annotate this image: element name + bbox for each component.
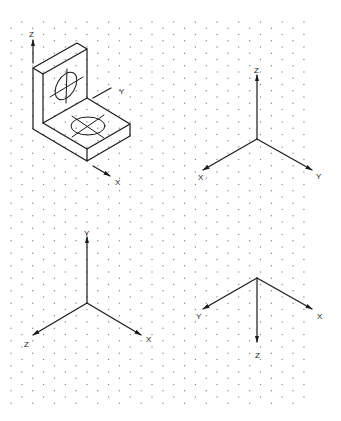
x-axis-arrow [203,139,257,170]
l-bracket-drawing: Z Y X [29,30,130,187]
y-axis-label: Y [316,172,322,181]
y-axis-label: Y [84,229,90,238]
z-axis-arrow [33,303,87,335]
y-axis-label: Y [196,312,202,321]
vertical-plate-top-face [33,43,87,74]
bracket-x-label: X [115,178,121,187]
x-axis-label: X [146,335,152,344]
bracket-y-label: Y [119,87,125,96]
isometric-axes-diagram: Z Y X Z X Y Y [0,0,341,421]
x-axis-arrow [87,303,141,335]
z-axis-label: Z [254,66,259,75]
axis-triad-top-right: Z X Y [198,66,322,182]
y-axis-arrow [203,278,257,309]
axis-triad-bottom-right: Y X Z [196,278,323,360]
y-axis-arrow [257,139,312,170]
bracket-x-axis-arrow [93,166,110,176]
base-top-face [43,98,130,149]
bracket-z-label: Z [29,30,34,39]
x-axis-arrow [257,278,312,309]
z-axis-label: Z [255,351,260,360]
x-axis-label: X [317,312,323,321]
x-axis-label: X [198,173,204,182]
bracket-outer-outline [33,68,130,161]
z-axis-label: Z [24,340,29,349]
base-hole-centerline-2 [72,115,104,137]
isometric-dot-grid [10,21,304,404]
